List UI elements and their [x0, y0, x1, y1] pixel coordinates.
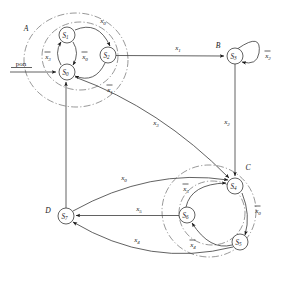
- edge-s7-s4: [73, 177, 228, 211]
- node-s3[interactable]: S3: [227, 48, 243, 64]
- node-s7[interactable]: S7: [58, 208, 74, 224]
- edge-label-s1-s0: x0: [81, 52, 88, 62]
- cluster-label-a: A: [23, 24, 29, 33]
- cluster-label-d: D: [44, 206, 51, 215]
- node-s0[interactable]: S0: [59, 64, 75, 80]
- edge-s2-s0: [75, 63, 105, 78]
- node-s6[interactable]: S6: [179, 207, 195, 223]
- svg-text:x1: x1: [106, 86, 113, 95]
- svg-text:x2: x2: [264, 52, 271, 61]
- edge-label-s3-self: x2: [264, 51, 271, 61]
- cluster-labels: A B C D: [23, 24, 252, 215]
- edge-s5-s7: [73, 222, 233, 254]
- edge-s5-s6: [192, 223, 232, 246]
- edge-s6-s4: [186, 183, 226, 207]
- edge-label-s0-s4: x3: [152, 119, 159, 128]
- node-s4[interactable]: S4: [227, 178, 243, 194]
- edge-label-s4-s5: x0: [254, 206, 261, 216]
- svg-text:x5: x5: [182, 185, 189, 194]
- edge-label-s5-s7: x4: [133, 236, 140, 245]
- node-s2[interactable]: S2: [100, 47, 116, 63]
- edge-label-s5-s6: x4: [189, 240, 196, 250]
- edge-label-s1-s2: x0: [99, 17, 106, 26]
- edge-s2-s3: [116, 56, 224, 57]
- edge-label-s6-s7: x5: [135, 205, 142, 214]
- edge-label-s2-s0: x1: [106, 85, 113, 95]
- cluster-label-c: C: [245, 163, 251, 172]
- edge-label-s3-s4: x2: [223, 118, 230, 127]
- cluster-label-b: B: [216, 41, 221, 50]
- svg-text:x0: x0: [81, 53, 88, 62]
- svg-text:x0: x0: [254, 207, 261, 216]
- svg-text:x3: x3: [44, 53, 51, 62]
- node-s1[interactable]: S1: [59, 27, 75, 43]
- edge-s0-s1: [58, 42, 62, 65]
- edge-label-s0-s1: x3: [44, 52, 51, 62]
- edge-label-s2-s3: x1: [174, 44, 181, 53]
- edge-s0-s4: [75, 77, 229, 178]
- svg-text:x4: x4: [189, 241, 196, 250]
- edge-s1-s0: [73, 42, 77, 65]
- edge-label-s7-s4: x0: [120, 174, 127, 183]
- node-s5[interactable]: S5: [232, 234, 248, 250]
- cluster-outlines: [24, 13, 256, 257]
- pon-label: pon: [16, 60, 27, 68]
- edge-label-s6-s4: x5: [182, 184, 189, 194]
- state-diagram-canvas: S0 S1 S2 S3 S4 S5 S6 S7: [0, 0, 281, 283]
